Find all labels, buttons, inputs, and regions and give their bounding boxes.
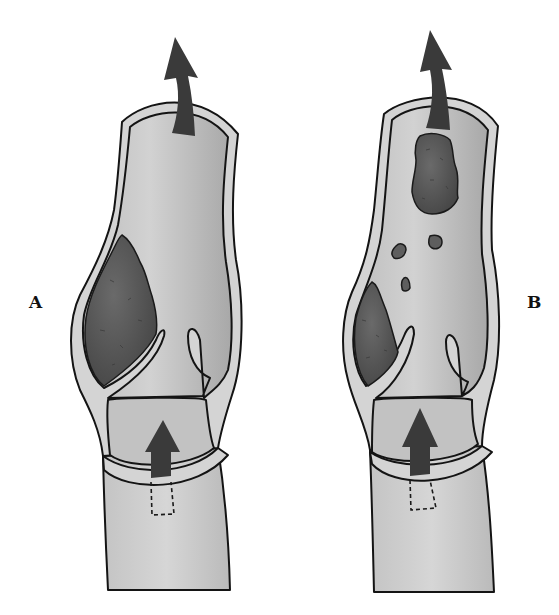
panel-label-a: A: [29, 292, 42, 312]
fragment-3: [402, 278, 410, 291]
panel-label-b: B: [527, 292, 541, 312]
vein-illustration: [0, 0, 559, 615]
fragment-1: [429, 235, 442, 249]
embolus-b: [412, 133, 458, 214]
panel-a: [71, 37, 242, 590]
panel-b: [343, 30, 499, 592]
